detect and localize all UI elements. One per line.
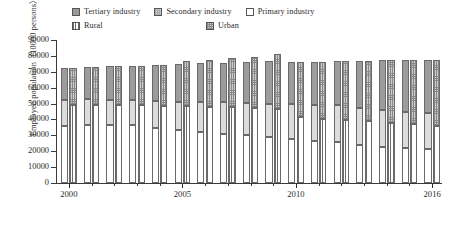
bar-segment bbox=[334, 61, 341, 105]
bar-residence-2011[interactable] bbox=[319, 40, 326, 183]
bar-segment bbox=[251, 108, 258, 183]
bar-industry-2013[interactable] bbox=[356, 40, 363, 183]
bar-residence-2006[interactable] bbox=[206, 40, 213, 183]
bar-group-2007[interactable] bbox=[220, 40, 236, 183]
x-tick-minor bbox=[364, 183, 365, 186]
bar-segment bbox=[152, 101, 159, 128]
bar-industry-2011[interactable] bbox=[311, 40, 318, 183]
x-tick-minor bbox=[92, 183, 93, 186]
bar-industry-2000[interactable] bbox=[61, 40, 68, 183]
bar-segment bbox=[387, 123, 394, 183]
bar-group-2006[interactable] bbox=[197, 40, 213, 183]
bar-segment bbox=[356, 61, 363, 108]
bar-segment bbox=[319, 62, 326, 119]
x-tick-minor bbox=[160, 183, 161, 186]
bar-segment bbox=[228, 58, 235, 107]
bar-industry-2007[interactable] bbox=[220, 40, 227, 183]
bar-residence-2013[interactable] bbox=[365, 40, 372, 183]
bar-group-2003[interactable] bbox=[129, 40, 145, 183]
bar-group-2002[interactable] bbox=[106, 40, 122, 183]
bar-residence-2010[interactable] bbox=[297, 40, 304, 183]
bar-segment bbox=[288, 62, 295, 104]
bar-residence-2016[interactable] bbox=[433, 40, 440, 183]
bar-group-2015[interactable] bbox=[402, 40, 418, 183]
bar-segment bbox=[334, 142, 341, 183]
bar-segment bbox=[152, 128, 159, 183]
bar-industry-2016[interactable] bbox=[424, 40, 431, 183]
bar-residence-2012[interactable] bbox=[342, 40, 349, 183]
legend-item-primary[interactable]: Primary industry bbox=[246, 8, 315, 16]
bar-segment bbox=[365, 121, 372, 183]
bar-residence-2008[interactable] bbox=[251, 40, 258, 183]
bar-group-2004[interactable] bbox=[152, 40, 168, 183]
bar-segment bbox=[129, 125, 136, 183]
y-tick bbox=[51, 119, 56, 120]
bar-residence-2007[interactable] bbox=[228, 40, 235, 183]
bar-industry-2008[interactable] bbox=[243, 40, 250, 183]
bar-segment bbox=[69, 68, 76, 105]
legend-item-tertiary[interactable]: Tertiary industry bbox=[72, 8, 140, 16]
bar-group-2014[interactable] bbox=[379, 40, 395, 183]
bar-industry-2005[interactable] bbox=[175, 40, 182, 183]
bar-group-2016[interactable] bbox=[424, 40, 440, 183]
bar-group-2010[interactable] bbox=[288, 40, 304, 183]
bar-industry-2006[interactable] bbox=[197, 40, 204, 183]
bar-group-2000[interactable] bbox=[61, 40, 77, 183]
bar-group-2012[interactable] bbox=[334, 40, 350, 183]
bar-segment bbox=[402, 112, 409, 148]
legend-label: Urban bbox=[218, 22, 239, 30]
legend-label: Secondary industry bbox=[166, 8, 231, 16]
bar-industry-2014[interactable] bbox=[379, 40, 386, 183]
bar-residence-2014[interactable] bbox=[387, 40, 394, 183]
bar-industry-2004[interactable] bbox=[152, 40, 159, 183]
bar-segment bbox=[342, 120, 349, 183]
bar-residence-2000[interactable] bbox=[69, 40, 76, 183]
bar-residence-2003[interactable] bbox=[138, 40, 145, 183]
y-tick-label: 0 bbox=[45, 179, 49, 187]
bar-residence-2002[interactable] bbox=[115, 40, 122, 183]
bar-industry-2001[interactable] bbox=[84, 40, 91, 183]
legend-swatch-tertiary-icon bbox=[72, 8, 80, 16]
x-tick-minor bbox=[205, 183, 206, 186]
bar-segment bbox=[243, 135, 250, 183]
bar-group-2013[interactable] bbox=[356, 40, 372, 183]
bar-residence-2005[interactable] bbox=[183, 40, 190, 183]
bar-group-2011[interactable] bbox=[311, 40, 327, 183]
bar-segment bbox=[175, 130, 182, 183]
bar-residence-2015[interactable] bbox=[410, 40, 417, 183]
y-axis-line bbox=[56, 40, 57, 183]
bar-industry-2002[interactable] bbox=[106, 40, 113, 183]
bar-segment bbox=[84, 99, 91, 125]
bar-segment bbox=[206, 107, 213, 183]
bar-segment bbox=[265, 104, 272, 137]
y-tick bbox=[51, 167, 56, 168]
bar-segment bbox=[424, 60, 431, 114]
bar-segment bbox=[288, 139, 295, 183]
bar-industry-2010[interactable] bbox=[288, 40, 295, 183]
bar-industry-2003[interactable] bbox=[129, 40, 136, 183]
bar-segment bbox=[220, 134, 227, 183]
bar-residence-2001[interactable] bbox=[92, 40, 99, 183]
bar-group-2008[interactable] bbox=[243, 40, 259, 183]
bar-residence-2004[interactable] bbox=[160, 40, 167, 183]
bar-group-2005[interactable] bbox=[175, 40, 191, 183]
legend-item-secondary[interactable]: Secondary industry bbox=[154, 8, 231, 16]
bar-industry-2015[interactable] bbox=[402, 40, 409, 183]
bar-segment bbox=[410, 60, 417, 124]
bar-industry-2009[interactable] bbox=[265, 40, 272, 183]
bar-segment bbox=[387, 60, 394, 122]
bar-segment bbox=[356, 108, 363, 145]
bar-group-2001[interactable] bbox=[84, 40, 100, 183]
bar-residence-2009[interactable] bbox=[274, 40, 281, 183]
bar-segment bbox=[206, 60, 213, 107]
chart-root: Tertiary industrySecondary industryPrima… bbox=[0, 0, 450, 225]
x-tick-minor bbox=[341, 183, 342, 186]
bar-group-2009[interactable] bbox=[265, 40, 281, 183]
legend-item-rural[interactable]: Rural bbox=[72, 22, 154, 30]
legend-row: Tertiary industrySecondary industryPrima… bbox=[72, 6, 402, 18]
bar-segment bbox=[84, 67, 91, 99]
bar-segment bbox=[129, 66, 136, 101]
legend-item-urban[interactable]: Urban bbox=[206, 22, 239, 30]
bar-segment bbox=[220, 63, 227, 103]
bar-industry-2012[interactable] bbox=[334, 40, 341, 183]
